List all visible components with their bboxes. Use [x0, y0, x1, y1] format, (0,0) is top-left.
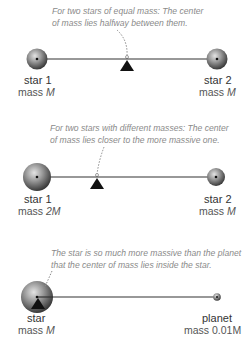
caption-line-2: that the center of mass lies inside the … [51, 260, 212, 270]
center-of-mass-diagram: For two stars of equal mass: The center … [0, 0, 251, 355]
fulcrum-triangle-icon [120, 60, 134, 71]
right-body-name: star 2 [204, 193, 232, 205]
right-body-mass: mass M [199, 86, 236, 98]
caption-line-1: For two stars of equal mass: The center [52, 6, 205, 16]
left-body-name: star 1 [24, 193, 52, 205]
left-body-mass: mass 2M [18, 205, 61, 217]
star-2-center-dot-icon [216, 58, 219, 61]
left-body-name: star [27, 312, 46, 324]
panel-equal-mass: For two stars of equal mass: The center … [18, 6, 236, 98]
star-2-center-dot-icon [215, 176, 218, 179]
right-body-mass: mass M [199, 205, 236, 217]
caption-line-2: of mass lies halfway between them. [52, 18, 188, 28]
right-body-mass: mass 0.01M [184, 324, 241, 336]
right-body-name: star 2 [204, 74, 232, 86]
star-1-center-dot-icon [36, 176, 39, 179]
caption-line-2: of mass lies closer to the more massive … [50, 135, 220, 145]
right-body-name: planet [202, 312, 232, 324]
fulcrum-triangle-icon [90, 178, 104, 189]
star-center-dot-icon [36, 296, 39, 299]
pointer-dotted-arrow [97, 147, 104, 174]
panel-star-planet: The star is so much more massive than th… [18, 248, 242, 336]
left-body-name: star 1 [24, 74, 52, 86]
center-of-mass-marker-icon [126, 56, 129, 59]
left-body-mass: mass M [18, 324, 55, 336]
caption-line-1: For two stars with different masses: The… [50, 123, 230, 133]
left-body-mass: mass M [18, 86, 55, 98]
planet-center-dot-icon [216, 296, 218, 298]
panel-different-mass: For two stars with different masses: The… [18, 123, 236, 217]
caption-line-1: The star is so much more massive than th… [51, 248, 242, 258]
star-1-center-dot-icon [36, 58, 39, 61]
pointer-dotted-arrow [117, 30, 127, 56]
